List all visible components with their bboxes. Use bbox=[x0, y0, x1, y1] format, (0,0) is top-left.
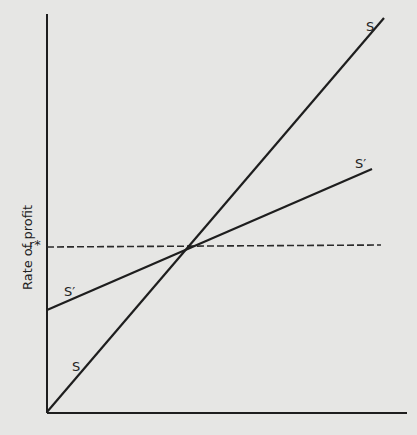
s-prime-right-label: S′ bbox=[355, 157, 366, 170]
s-prime-left-label: S′ bbox=[64, 285, 75, 298]
s-top-label: S bbox=[366, 20, 374, 33]
chart-canvas bbox=[0, 0, 417, 435]
s-bottom-label: S bbox=[72, 360, 80, 373]
r-star-label: r* bbox=[29, 238, 41, 251]
s-prime-curve bbox=[47, 169, 372, 310]
s-curve bbox=[47, 18, 384, 412]
r-star-dashed-line bbox=[47, 245, 381, 247]
